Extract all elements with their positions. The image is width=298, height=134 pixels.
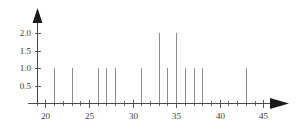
y-tick-label: 1.0	[20, 63, 32, 73]
right-arrow-icon	[270, 98, 289, 109]
x-tick-label: 30	[129, 111, 139, 121]
y-axis-tick-labels: 0.51.01.52.0	[20, 28, 32, 91]
y-tick-label: 1.5	[20, 46, 32, 56]
x-tick-label: 45	[259, 111, 269, 121]
x-tick-label: 20	[41, 111, 51, 121]
y-tick-label: 2.0	[20, 28, 32, 38]
stem-lines	[55, 33, 247, 104]
x-tick-label: 40	[216, 111, 226, 121]
x-tick-label: 35	[172, 111, 182, 121]
y-tick-label: 0.5	[20, 81, 32, 91]
up-arrow-icon	[33, 8, 43, 23]
x-axis-tick-labels: 202530354045	[41, 111, 269, 121]
stem-plot-chart: 0.51.01.52.0 202530354045	[0, 0, 298, 134]
chart-canvas: 0.51.01.52.0 202530354045	[0, 0, 298, 134]
x-tick-label: 25	[85, 111, 95, 121]
